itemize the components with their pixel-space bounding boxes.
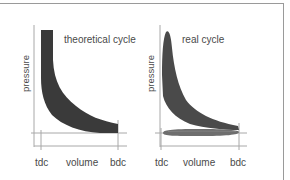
real-cycle-title: real cycle — [182, 35, 224, 45]
volume-axis-label: volume — [183, 158, 215, 168]
real-cycle-power-loop — [162, 31, 239, 130]
volume-axis-label: volume — [66, 158, 98, 168]
tdc-label: tdc — [155, 158, 168, 168]
pressure-axis-label: pressure — [21, 55, 31, 92]
theoretical-cycle-area — [41, 30, 118, 133]
real-cycle-pumping-loop — [163, 129, 239, 136]
bdc-label: bdc — [230, 158, 246, 168]
theoretical-cycle-title: theoretical cycle — [64, 35, 136, 45]
bdc-label: bdc — [110, 158, 126, 168]
tdc-label: tdc — [35, 158, 48, 168]
pressure-axis-label: pressure — [146, 55, 156, 92]
